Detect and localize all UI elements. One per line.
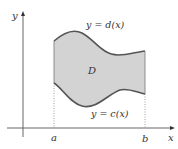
y-axis-label: y bbox=[11, 10, 18, 21]
lower-curve-label: y = c(x) bbox=[90, 108, 129, 119]
y-axis-arrow-icon bbox=[21, 11, 25, 16]
x-axis-arrow-icon bbox=[170, 126, 175, 130]
upper-curve-label: y = d(x) bbox=[85, 19, 125, 30]
x-axis-label: x bbox=[168, 132, 174, 143]
region-label: D bbox=[87, 65, 96, 76]
bound-b-label: b bbox=[142, 133, 148, 144]
bound-a-label: a bbox=[51, 132, 57, 143]
region-diagram: y x a b y = d(x) y = c(x) D bbox=[0, 0, 178, 149]
